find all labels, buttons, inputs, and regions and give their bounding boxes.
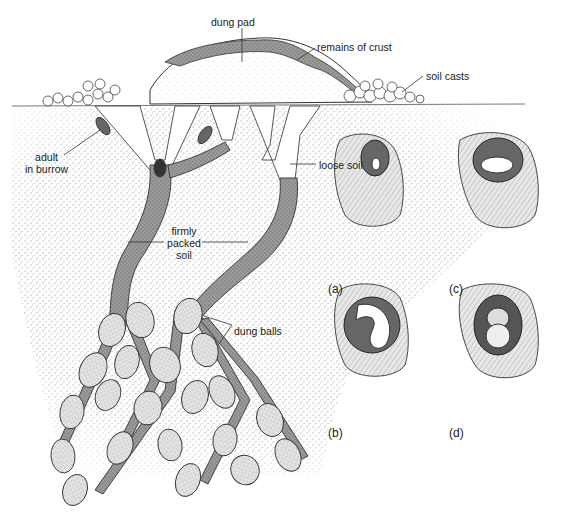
panel-label-b: (b) [328,426,343,440]
dung-beetle-diagram [0,0,561,514]
panel-label-c: (c) [449,282,463,296]
label-dung-balls: dung balls [234,325,282,337]
label-loose-soil: loose soil [319,159,363,171]
label-firmly-packed-soil: firmly packed soil [166,225,202,261]
panel-label-a: (a) [328,282,343,296]
brood-ball-d [459,284,538,378]
label-dung-pad: dung pad [211,16,255,28]
brood-ball-b [335,284,409,376]
brood-ball-a [335,134,404,226]
panel-label-d: (d) [449,426,464,440]
label-adult-in-burrow: adult in burrow [24,151,69,175]
label-soil-casts: soil casts [426,70,469,82]
label-remains-of-crust: remains of crust [317,41,392,53]
